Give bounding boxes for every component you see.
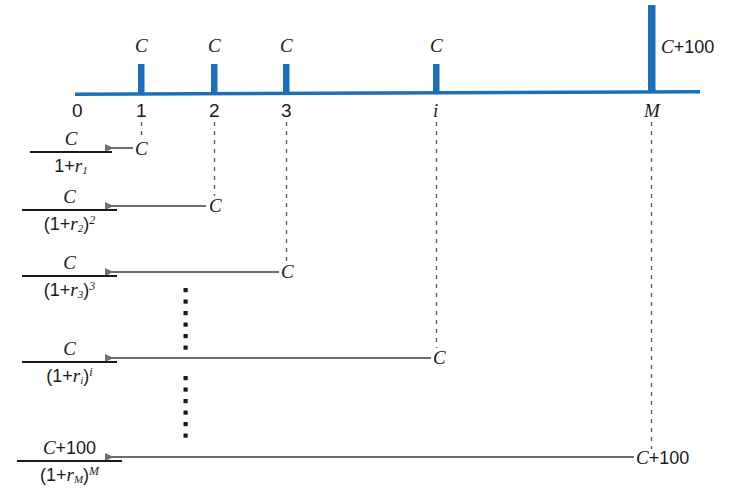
diagram-svg	[0, 0, 738, 493]
bar-period-3	[283, 64, 290, 93]
fraction-row-i-denominator: (1+ri)i	[22, 364, 117, 387]
ellipsis-lower	[184, 376, 188, 438]
fraction-row-1-sub: 1	[82, 164, 88, 176]
flow-label-row-M-prefix: C	[636, 447, 649, 468]
fraction-row-M-rate: r	[66, 464, 73, 485]
fraction-row-1-denominator: 1+r1	[30, 154, 112, 177]
fraction-row-i-bar	[22, 361, 117, 363]
tick-label-M: M	[644, 101, 660, 120]
bar-period-1	[138, 64, 145, 93]
bar-period-i	[433, 64, 440, 92]
bar-label-period-3: C	[280, 36, 293, 55]
tick-label-i: i	[433, 101, 438, 120]
fraction-row-M-denominator: (1+rM)M	[17, 463, 122, 486]
bar-period-2	[211, 64, 218, 93]
timeline-axis	[75, 90, 700, 96]
fraction-row-2-bar	[22, 209, 117, 211]
fraction-row-2-exp: 2	[89, 213, 95, 227]
fraction-row-2: C (1+r2)2	[22, 186, 117, 235]
fraction-row-1-numerator: C	[30, 128, 112, 150]
fraction-row-3-bar	[22, 275, 117, 277]
figure-canvas: C C C C C+100 0 1 2 3 i M C 1+r1 C C (1+…	[0, 0, 738, 493]
bar-label-period-M: C+100	[661, 36, 714, 58]
fraction-row-1-bar	[30, 151, 112, 153]
fraction-row-M-numerator: C+100	[17, 437, 122, 459]
fraction-row-1: C 1+r1	[30, 128, 112, 177]
droplines	[142, 122, 652, 449]
fraction-row-M-numerator-c: C	[43, 437, 56, 458]
tick-label-3: 3	[281, 101, 292, 120]
bar-label-period-1: C	[135, 36, 148, 55]
bar-label-period-M-suffix: +100	[674, 37, 715, 57]
fraction-row-M-exp: M	[89, 464, 99, 478]
fraction-row-M-bar	[17, 460, 122, 462]
bar-period-M	[648, 5, 656, 92]
bar-label-period-2: C	[208, 36, 221, 55]
fraction-row-M-numerator-plus100: +100	[56, 438, 97, 458]
flow-label-row-i: C	[433, 348, 446, 367]
flow-label-row-M-suffix: +100	[649, 448, 690, 468]
fraction-row-i-exp: i	[89, 365, 92, 379]
fraction-row-M: C+100 (1+rM)M	[17, 437, 122, 486]
flow-label-row-M: C+100	[636, 447, 689, 469]
tick-label-1: 1	[136, 101, 147, 120]
fraction-row-2-denominator: (1+r2)2	[22, 212, 117, 235]
fraction-row-2-numerator: C	[22, 186, 117, 208]
fraction-row-2-rate: r	[70, 213, 77, 234]
flow-label-row-2: C	[209, 196, 222, 215]
bar-label-period-M-prefix: C	[661, 36, 674, 57]
tick-label-2: 2	[209, 101, 220, 120]
tick-label-0: 0	[72, 101, 83, 120]
fraction-row-3-rate: r	[70, 279, 77, 300]
fraction-row-3-numerator: C	[22, 252, 117, 274]
fraction-row-i-numerator: C	[22, 338, 117, 360]
fraction-row-3-exp: 3	[89, 279, 95, 293]
fraction-row-M-sub: M	[74, 473, 83, 485]
bar-label-period-i: C	[430, 36, 443, 55]
fraction-row-3: C (1+r3)3	[22, 252, 117, 301]
fraction-row-3-denominator: (1+r3)3	[22, 278, 117, 301]
ellipsis-upper	[184, 288, 188, 350]
flow-label-row-1: C	[135, 139, 148, 158]
fraction-row-i: C (1+ri)i	[22, 338, 117, 387]
flow-label-row-3: C	[281, 262, 294, 281]
